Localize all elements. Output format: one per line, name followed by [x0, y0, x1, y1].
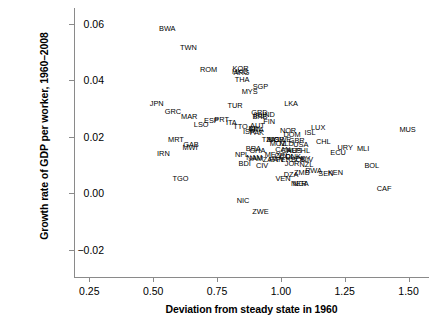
- scatter-point-label: NGA: [293, 178, 309, 187]
- scatter-point-label: KEN: [328, 167, 343, 176]
- scatter-point-label: MLI: [357, 144, 369, 153]
- scatter-point-label: THA: [235, 75, 250, 84]
- y-tick-label: 0.06: [84, 18, 104, 30]
- x-tick-mark: [281, 277, 282, 282]
- y-axis-title: Growth rate of GDP per worker, 1960–2008: [38, 6, 50, 266]
- x-tick-mark: [153, 277, 154, 282]
- scatter-point-label: CAF: [377, 183, 392, 192]
- x-tick-label: 0.50: [143, 285, 163, 297]
- scatter-point-label: ECU: [330, 147, 345, 156]
- scatter-point-label: TGO: [173, 173, 189, 182]
- x-axis-line: [74, 277, 429, 278]
- scatter-point-label: TUR: [228, 100, 243, 109]
- x-tick-mark: [217, 277, 218, 282]
- scatter-point-label: CIV: [256, 160, 268, 169]
- scatter-point-label: TWN: [180, 43, 197, 52]
- x-tick-mark: [345, 277, 346, 282]
- y-tick-label: 0.04: [84, 74, 104, 86]
- y-tick-mark: [69, 193, 74, 194]
- y-tick-mark: [69, 80, 74, 81]
- scatter-point-label: MWI: [182, 143, 197, 152]
- scatter-point-label: VEN: [275, 173, 290, 182]
- x-tick-label: 1.25: [335, 285, 355, 297]
- scatter-point-label: BWA: [159, 23, 175, 32]
- x-tick-mark: [409, 277, 410, 282]
- y-tick-mark: [69, 137, 74, 138]
- x-tick-label: 0.25: [79, 285, 99, 297]
- scatter-point-label: MUS: [399, 124, 415, 133]
- scatter-plot-figure: Growth rate of GDP per worker, 1960–2008…: [0, 0, 436, 327]
- x-tick-label: 1.00: [271, 285, 291, 297]
- scatter-point-label: BOL: [364, 161, 379, 170]
- scatter-point-label: MYS: [242, 87, 258, 96]
- scatter-point-label: GRC: [165, 106, 181, 115]
- y-tick-label: 0.02: [84, 131, 104, 143]
- scatter-point-label: BDI: [239, 158, 251, 167]
- y-tick-mark: [69, 24, 74, 25]
- scatter-point-label: JPN: [150, 99, 164, 108]
- scatter-point-label: NIC: [237, 195, 250, 204]
- scatter-point-label: LSO: [194, 120, 209, 129]
- x-tick-label: 0.75: [207, 285, 227, 297]
- scatter-point-label: LKA: [284, 99, 298, 108]
- y-tick-mark: [69, 250, 74, 251]
- scatter-point-label: ZWE: [252, 207, 268, 216]
- scatter-point-label: CHL: [316, 136, 331, 145]
- plot-area: −0.020.000.020.040.06 0.250.500.751.001.…: [74, 8, 429, 277]
- scatter-point-label: ROM: [200, 64, 217, 73]
- x-axis-title: Deviation from steady state in 1960: [74, 303, 429, 315]
- scatter-point-label: ISL: [305, 128, 316, 137]
- x-tick-mark: [89, 277, 90, 282]
- y-tick-label: −0.02: [77, 244, 104, 256]
- y-axis-line: [74, 8, 75, 277]
- x-tick-label: 1.50: [398, 285, 418, 297]
- scatter-point-label: MRT: [168, 135, 184, 144]
- y-tick-label: 0.00: [84, 187, 104, 199]
- scatter-point-label: IRN: [157, 148, 170, 157]
